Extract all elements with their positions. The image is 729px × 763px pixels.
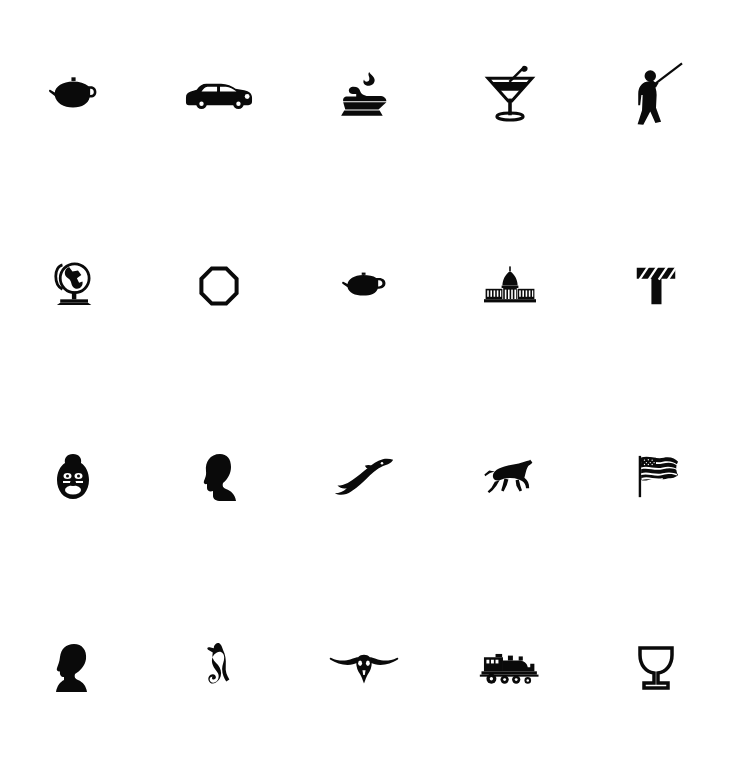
grid-cell[interactable] [437,0,583,191]
anvil-flame-icon[interactable] [338,69,390,121]
american-flag-icon[interactable] [632,453,680,501]
grid-cell[interactable] [0,382,146,573]
grid-cell[interactable] [146,572,292,763]
grid-cell[interactable] [146,191,292,382]
cocktail-glass-icon[interactable] [483,64,537,126]
grid-cell[interactable] [292,572,438,763]
man-profile-icon[interactable] [51,642,95,694]
grid-cell[interactable] [437,572,583,763]
grid-cell[interactable] [0,191,146,382]
globe-icon[interactable] [48,257,98,315]
seahorse-icon[interactable] [202,641,236,695]
goblet-icon[interactable] [635,643,677,693]
grid-cell[interactable] [292,0,438,191]
grid-cell[interactable] [437,382,583,573]
letter-t-icon[interactable] [633,264,679,308]
grid-cell[interactable] [583,0,729,191]
grid-cell[interactable] [146,0,292,191]
grid-cell[interactable] [292,191,438,382]
icon-grid [0,0,729,763]
woman-profile-icon[interactable] [198,451,240,503]
running-horse-icon[interactable] [482,457,538,497]
grid-cell[interactable] [146,382,292,573]
grid-cell[interactable] [292,382,438,573]
teapot-icon[interactable] [47,69,99,121]
marching-figure-icon[interactable] [627,62,685,128]
classic-car-icon[interactable] [185,75,253,115]
grid-cell[interactable] [583,572,729,763]
grid-cell[interactable] [583,382,729,573]
longhorn-skull-icon[interactable] [329,650,399,686]
grid-cell[interactable] [583,191,729,382]
grid-cell[interactable] [0,572,146,763]
grid-cell[interactable] [437,191,583,382]
small-teapot-icon[interactable] [341,269,387,303]
octagon-ring-icon[interactable] [199,266,239,306]
icon-sheet-page [0,0,729,763]
steam-locomotive-icon[interactable] [479,648,541,688]
grid-cell[interactable] [0,0,146,191]
clown-face-icon[interactable] [53,452,93,502]
capitol-building-icon[interactable] [480,264,540,308]
dolphin-icon[interactable] [334,455,394,499]
